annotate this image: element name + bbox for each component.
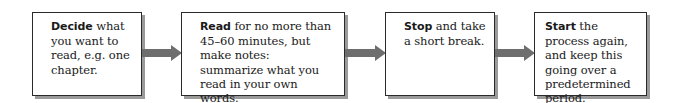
step-read-box: Read for no more than 45–60 minutes, but… bbox=[181, 12, 345, 96]
step-stop-box: Stop and take a short break. bbox=[385, 12, 495, 96]
step-start-lead: Start bbox=[545, 20, 576, 33]
arrow-right-icon bbox=[345, 45, 386, 61]
step-read-lead: Read bbox=[200, 20, 231, 33]
step-stop-lead: Stop bbox=[404, 20, 432, 33]
arrow-right-icon bbox=[142, 45, 182, 61]
step-start-box: Start the process again, and keep this g… bbox=[534, 12, 647, 96]
arrow-right-icon bbox=[495, 45, 535, 61]
step-decide-lead: Decide bbox=[51, 20, 93, 33]
step-decide-box: Decide what you want to read, e.g. one c… bbox=[32, 12, 142, 96]
